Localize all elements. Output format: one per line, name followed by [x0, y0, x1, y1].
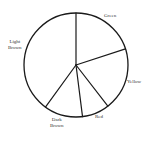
pie-chart	[0, 0, 148, 142]
label-yellow: Yellow	[127, 79, 141, 85]
label-green: Green	[104, 13, 116, 19]
label-red: Red	[95, 114, 103, 120]
label-light-brown: Light Brown	[8, 39, 22, 51]
label-dark-brown: Dark Brown	[50, 117, 64, 129]
